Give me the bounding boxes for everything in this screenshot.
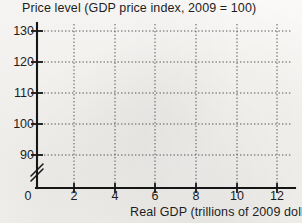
x-tick-label-2: 2 <box>64 190 84 202</box>
x-tick-label-10: 10 <box>227 190 247 202</box>
origin-label: 0 <box>18 190 38 202</box>
y-tick-label-120: 120 <box>0 56 34 68</box>
horizontal-gridlines <box>37 31 291 155</box>
x-tick-label-6: 6 <box>145 190 165 202</box>
y-tick-label-130: 130 <box>0 25 34 37</box>
x-tick-label-12: 12 <box>267 190 287 202</box>
y-tick-label-90: 90 <box>0 149 34 161</box>
x-tick-label-4: 4 <box>105 190 125 202</box>
y-tick-label-110: 110 <box>0 87 34 99</box>
y-tick-label-100: 100 <box>0 118 34 130</box>
vertical-gridlines <box>74 24 277 188</box>
price-level-real-gdp-chart: Price level (GDP price index, 2009 = 100… <box>0 0 302 223</box>
x-tick-label-8: 8 <box>186 190 206 202</box>
